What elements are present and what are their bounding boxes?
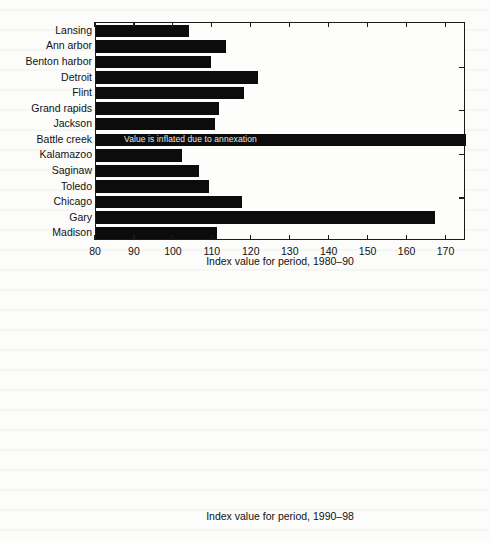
x-axis-tick xyxy=(445,235,446,240)
x-axis-tick-top xyxy=(172,22,173,27)
x-axis-title-bottom: Index value for period, 1990–98 xyxy=(95,511,465,522)
plot-area-top: Value is inflated due to annexation xyxy=(95,22,465,240)
x-axis-tick-label: 90 xyxy=(128,246,140,257)
category-label: Detroit xyxy=(61,71,92,82)
bar xyxy=(96,40,226,53)
bar xyxy=(96,118,215,131)
bar xyxy=(96,102,219,115)
category-label: Gary xyxy=(69,211,92,222)
x-axis-tick xyxy=(172,235,173,240)
bar xyxy=(96,56,211,69)
category-label: Jackson xyxy=(53,118,92,129)
category-label: Flint xyxy=(72,87,92,98)
x-axis-tick-top xyxy=(94,22,95,27)
bar xyxy=(96,25,189,38)
category-label: Kalamazoo xyxy=(39,149,92,160)
category-label: Chicago xyxy=(53,196,92,207)
y-axis-minor-tick xyxy=(459,197,464,198)
x-axis-tick xyxy=(328,235,329,240)
category-label: Battle creek xyxy=(37,134,92,145)
x-axis-tick-top xyxy=(289,22,290,27)
y-axis-minor-tick xyxy=(459,67,464,68)
y-axis-minor-tick xyxy=(459,110,464,111)
x-axis-tick-top xyxy=(367,22,368,27)
bar xyxy=(96,227,217,240)
category-label: Lansing xyxy=(55,25,92,36)
x-axis-tick xyxy=(133,235,134,240)
bar xyxy=(96,149,182,162)
category-label: Benton harbor xyxy=(25,56,92,67)
x-axis-tick-top xyxy=(211,22,212,27)
x-axis-tick-top xyxy=(445,22,446,27)
bar xyxy=(96,180,209,193)
chart-panel-1980-90: LansingAnn arborBenton harborDetroitFlin… xyxy=(0,0,490,278)
category-label: Ann arbor xyxy=(46,40,92,51)
category-label: Toledo xyxy=(61,180,92,191)
chart-panel-1990-98: LansingAnn arborBenton harborDetroitFlin… xyxy=(0,263,490,541)
x-axis-tick xyxy=(406,235,407,240)
x-axis-tick-label: 100 xyxy=(164,246,182,257)
x-axis-tick xyxy=(289,235,290,240)
x-axis-tick xyxy=(250,235,251,240)
x-axis-tick-top xyxy=(250,22,251,27)
x-axis-tick-label: 150 xyxy=(359,246,377,257)
x-axis-tick-label: 80 xyxy=(89,246,101,257)
x-axis-tick xyxy=(367,235,368,240)
bar xyxy=(96,87,244,100)
bar xyxy=(96,196,242,209)
category-label: Grand rapids xyxy=(31,102,92,113)
x-axis-tick-top xyxy=(406,22,407,27)
x-axis-tick xyxy=(211,235,212,240)
bar xyxy=(96,134,466,147)
y-axis-minor-tick xyxy=(459,154,464,155)
bar xyxy=(96,71,258,84)
figure-page: LansingAnn arborBenton harborDetroitFlin… xyxy=(0,0,490,541)
x-axis-tick-label: 160 xyxy=(398,246,416,257)
category-label: Saginaw xyxy=(52,165,92,176)
x-axis-tick-top xyxy=(328,22,329,27)
x-axis-tick-label: 170 xyxy=(437,246,455,257)
x-axis-tick xyxy=(94,235,95,240)
x-axis-tick-top xyxy=(133,22,134,27)
bar xyxy=(96,165,199,178)
category-label: Madison xyxy=(52,227,92,238)
bar xyxy=(96,211,435,224)
